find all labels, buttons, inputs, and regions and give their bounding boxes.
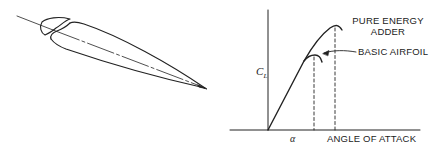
y-axis-label: CL: [256, 66, 268, 82]
airfoil-upper-surface: [70, 22, 205, 88]
airfoil-lower-surface: [51, 39, 205, 88]
energy-adder-curve: [268, 26, 342, 130]
arrow-head-icon: [323, 51, 329, 56]
energy-adder-label-line1: PURE ENERGY: [340, 15, 436, 26]
basic-airfoil-label: BASIC AIRFOIL: [358, 46, 428, 57]
x-axis-label: ANGLE OF ATTACK: [327, 133, 416, 144]
lift-curve-figure: CL α ANGLE OF ATTACK PURE ENERGY ADDER B…: [0, 0, 441, 152]
energy-adder-label: PURE ENERGY ADDER: [340, 15, 436, 37]
energy-adder-label-line2: ADDER: [340, 26, 436, 37]
y-axis-label-subscript: L: [264, 72, 268, 80]
alpha-label: α: [290, 133, 295, 144]
airfoil-diagram: [17, 16, 207, 89]
chord-line-lead: [17, 16, 53, 30]
chord-line: [53, 30, 200, 86]
trailing-edge: [198, 85, 207, 89]
